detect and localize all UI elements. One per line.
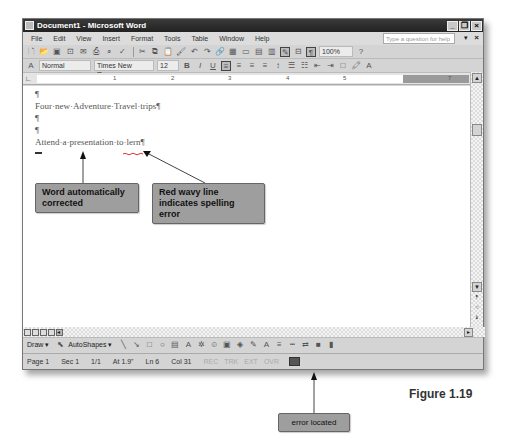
autocorrect-arrowhead [80,151,86,159]
spelling-error-underline [123,153,143,155]
figure-label: Figure 1.19 [409,387,472,401]
spelling-arrow-line [147,153,205,183]
callout-spelling: Red wavy line indicates spelling error [152,183,265,224]
callout-error-located: error located [278,413,350,432]
error-located-arrowhead [311,372,317,380]
callout-autocorrect: Word automatically corrected [35,183,139,213]
